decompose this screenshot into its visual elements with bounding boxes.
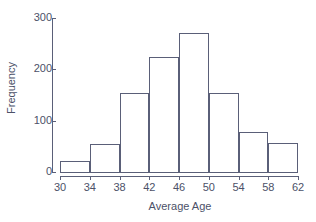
x-tick-label: 38 <box>108 182 132 193</box>
y-tick-label: 0 <box>26 166 52 177</box>
histogram-figure: Frequency 0100200300 Average Age 3034384… <box>0 0 316 222</box>
histogram-bar <box>179 33 209 173</box>
histogram-bar <box>90 144 120 173</box>
histogram-bar <box>60 161 90 173</box>
x-tick-mark <box>209 176 210 180</box>
x-tick-mark <box>149 176 150 180</box>
x-axis-title: Average Age <box>56 200 304 212</box>
histogram-bar <box>120 93 150 173</box>
x-tick-mark <box>90 176 91 180</box>
x-tick-label: 42 <box>137 182 161 193</box>
x-tick-label: 30 <box>48 182 72 193</box>
x-tick-mark <box>268 176 269 180</box>
y-axis-title: Frequency <box>0 0 22 176</box>
x-tick-label: 58 <box>256 182 280 193</box>
histogram-bar <box>239 132 269 173</box>
x-tick-label: 50 <box>197 182 221 193</box>
x-tick-mark <box>120 176 121 180</box>
plot-area <box>56 14 304 176</box>
y-axis-line <box>52 18 53 173</box>
x-tick-mark <box>298 176 299 180</box>
x-axis: Average Age 303438424650545862 <box>56 176 304 222</box>
bars-group <box>56 14 304 176</box>
x-tick-mark <box>60 176 61 180</box>
histogram-bar <box>149 57 179 174</box>
y-tick-label: 100 <box>26 115 52 126</box>
histogram-bar <box>209 93 239 173</box>
x-tick-label: 62 <box>286 182 310 193</box>
x-tick-label: 46 <box>167 182 191 193</box>
x-tick-label: 34 <box>78 182 102 193</box>
y-axis-title-text: Frequency <box>5 62 17 114</box>
x-tick-mark <box>239 176 240 180</box>
x-tick-mark <box>179 176 180 180</box>
x-tick-label: 54 <box>227 182 251 193</box>
histogram-bar <box>268 143 298 173</box>
y-tick-label: 300 <box>26 12 52 23</box>
y-tick-label: 200 <box>26 63 52 74</box>
